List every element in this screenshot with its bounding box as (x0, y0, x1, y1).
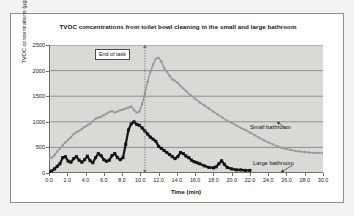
data-point (226, 166, 229, 169)
data-point (108, 159, 111, 162)
data-point (94, 118, 96, 120)
y-tick-mark (46, 71, 49, 72)
x-tick-mark (232, 173, 233, 176)
y-tick-mark (46, 96, 49, 97)
data-point (190, 159, 193, 162)
y-tick-mark (46, 122, 49, 123)
x-tick-label: 26.0 (281, 177, 292, 183)
data-point (111, 110, 113, 112)
data-point (64, 155, 67, 158)
chart-title: TVOC concentrations from toilet bowl cle… (11, 23, 345, 30)
data-point (155, 58, 157, 60)
data-point (185, 155, 188, 158)
data-point (281, 147, 283, 149)
data-point (239, 168, 242, 171)
data-point (84, 126, 86, 128)
data-point (217, 114, 219, 116)
data-point (89, 123, 91, 125)
data-point (149, 136, 152, 139)
y-tick-label: 1500 (33, 93, 47, 99)
data-point (182, 152, 185, 155)
data-point (272, 143, 274, 145)
data-point (217, 162, 220, 165)
data-point (141, 103, 143, 105)
data-point (212, 166, 215, 169)
data-point (157, 145, 160, 148)
data-point (72, 157, 75, 160)
data-point (103, 114, 105, 116)
data-point (51, 157, 53, 159)
x-tick-mark (104, 173, 105, 176)
series-label-small-bathroom: Small bathroom (250, 124, 291, 130)
data-point (80, 161, 83, 164)
data-point (64, 141, 66, 143)
data-point (122, 108, 124, 110)
x-tick-label: 22.0 (245, 177, 256, 183)
data-point (152, 138, 155, 141)
x-tick-label: 12.0 (153, 177, 164, 183)
x-tick-mark (140, 173, 141, 176)
data-point (92, 120, 94, 122)
x-tick-label: 10.0 (135, 177, 146, 183)
data-point (121, 156, 124, 159)
data-point (81, 128, 83, 130)
x-tick-mark (268, 173, 269, 176)
data-point (179, 85, 181, 87)
chart-frame: TVOC concentrations from toilet bowl cle… (10, 13, 344, 203)
data-point (86, 124, 88, 126)
data-point (136, 111, 138, 113)
x-tick-label: 28.0 (299, 177, 310, 183)
data-point (290, 149, 292, 151)
data-point (179, 151, 182, 154)
data-point (78, 159, 81, 162)
data-point (304, 151, 306, 153)
x-tick-label: 30.0 (318, 177, 329, 183)
x-tick-mark (159, 173, 160, 176)
data-point (127, 106, 129, 108)
x-tick-label: 18.0 (208, 177, 219, 183)
data-point (194, 98, 196, 100)
data-point (50, 169, 53, 172)
data-point (244, 129, 246, 131)
data-point (67, 139, 69, 141)
data-point (138, 110, 140, 112)
x-tick-mark (195, 173, 196, 176)
data-point (215, 165, 218, 168)
x-axis-title: Time (min) (49, 189, 323, 195)
data-point (166, 71, 168, 73)
data-point (119, 158, 122, 161)
data-point (119, 109, 121, 111)
end-of-task-arrow (143, 170, 147, 173)
data-point (100, 116, 102, 118)
data-point (313, 152, 315, 154)
data-point (105, 113, 107, 115)
data-point (97, 152, 100, 155)
data-point (61, 156, 64, 159)
data-point (220, 159, 223, 162)
data-point (91, 161, 94, 164)
data-point (75, 131, 77, 133)
data-point (231, 122, 233, 124)
data-point (100, 154, 103, 157)
data-point (138, 124, 141, 127)
plot-wrapper: 050010001500200025000.02.04.06.08.010.01… (49, 45, 323, 173)
data-point (171, 155, 174, 158)
series-line-small-bathroom (49, 58, 323, 159)
data-point (285, 148, 287, 150)
data-point (59, 147, 61, 149)
end-of-task-annotation: End of task (95, 49, 130, 60)
y-tick-label: 2500 (33, 42, 47, 48)
data-point (223, 163, 226, 166)
data-point (75, 155, 78, 158)
data-point (212, 110, 214, 112)
x-tick-mark (122, 173, 123, 176)
data-point (146, 133, 149, 136)
data-point (125, 107, 127, 109)
data-point (263, 139, 265, 141)
data-point (174, 157, 177, 160)
data-point (124, 143, 127, 146)
data-point (160, 147, 163, 150)
y-axis-title-container: TVOC concentrations (µg/m³) (25, 45, 39, 173)
data-point (147, 81, 149, 83)
series-label-large-bathroom: Large bathroom (253, 160, 294, 166)
